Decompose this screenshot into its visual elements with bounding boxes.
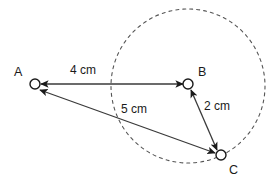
point-marker-a (30, 79, 40, 89)
vector-diagram-canvas (0, 0, 278, 183)
point-label-a: A (14, 66, 22, 78)
point-label-c: C (229, 164, 238, 176)
length-label-ab: 4 cm (70, 64, 96, 76)
vector-line-ac (40, 90, 215, 153)
length-label-ac: 5 cm (121, 103, 147, 115)
point-marker-c (216, 150, 226, 160)
geometry-diagram: A B C 4 cm 2 cm 5 cm (0, 0, 278, 183)
point-marker-b (183, 79, 193, 89)
length-label-bc: 2 cm (204, 100, 230, 112)
point-label-b: B (198, 66, 206, 78)
